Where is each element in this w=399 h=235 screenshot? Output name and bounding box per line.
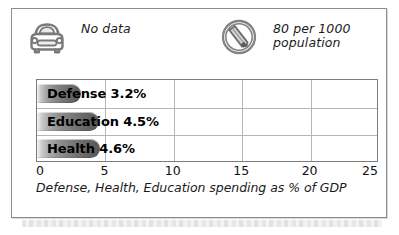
chart-caption: Defense, Health, Education spending as %… [36,180,347,195]
bar-row: Defense 3.2% [37,80,377,108]
x-tick-label: 20 [302,163,318,178]
bar-row: Education 4.5% [37,108,377,136]
fact-panel: No data 80 per 1000 population [11,8,387,218]
spending-bar-chart: Defense 3.2%Education 4.5%Health 4.6% 05… [24,79,377,211]
telephone-icon [216,15,262,59]
stat-vehicles-label: No data [81,22,131,36]
chart-x-axis: 0510152025 [36,162,378,180]
stat-telephones-label: 80 per 1000 population [273,22,351,49]
x-tick-label: 15 [233,163,249,178]
car-icon [24,15,70,59]
stat-vehicles: No data [24,15,131,59]
x-tick-label: 10 [165,163,181,178]
bar-label-health: Health 4.6% [47,139,135,158]
x-tick-label: 25 [362,163,378,178]
stat-telephones: 80 per 1000 population [216,15,351,59]
bar-label-education: Education 4.5% [47,112,159,131]
panel-shadow-strip [22,220,382,227]
chart-plot-area: Defense 3.2%Education 4.5%Health 4.6% [36,79,378,162]
bar-row: Health 4.6% [37,135,377,162]
x-tick-label: 0 [36,163,44,178]
stats-row: No data 80 per 1000 population [12,9,386,79]
bar-label-defense: Defense 3.2% [47,84,146,103]
x-tick-label: 5 [100,163,108,178]
